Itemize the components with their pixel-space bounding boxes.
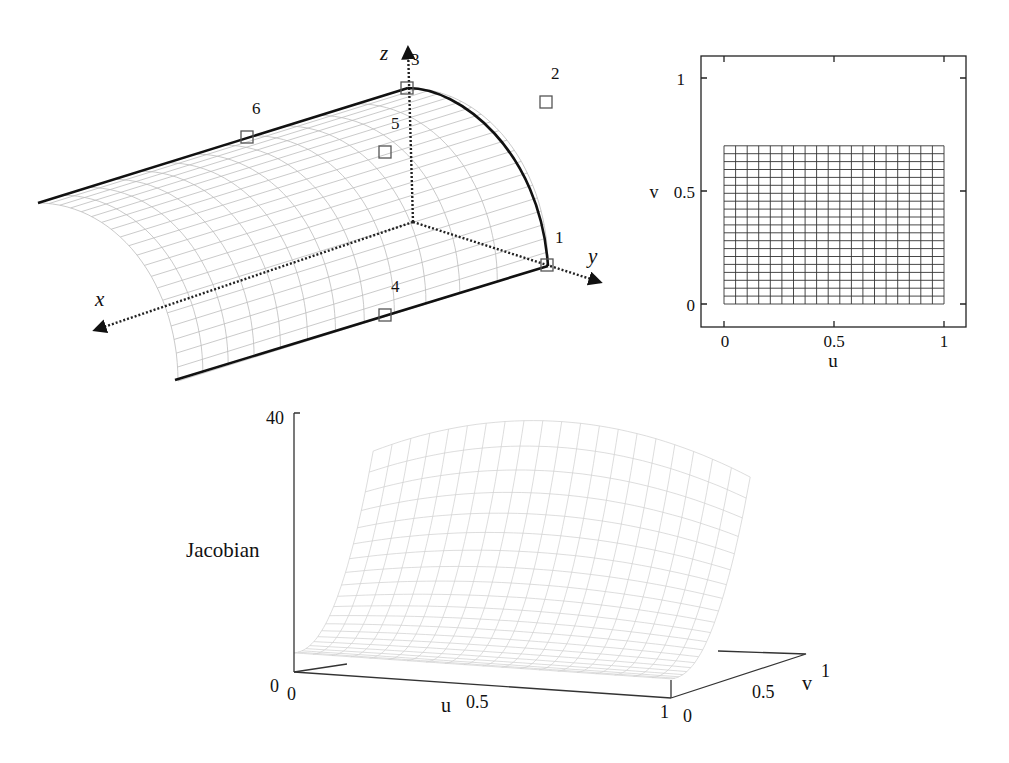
u-axis-label: u xyxy=(441,694,451,716)
parameter-plot: 1 0.5 0 v 0 0.5 1 u xyxy=(650,56,967,371)
z-axis-label: z xyxy=(379,41,388,65)
control-point-6-label: 6 xyxy=(252,99,261,118)
x-tick-0: 0 xyxy=(721,332,730,351)
surface-top-edge xyxy=(38,88,408,203)
control-point-4-label: 4 xyxy=(391,277,400,296)
y-axis-label: y xyxy=(586,244,598,268)
u-tick-0.5: 0.5 xyxy=(466,692,489,712)
u-tick-1: 1 xyxy=(660,702,669,722)
surface-plot: x y z 1 2 3 4 5 6 xyxy=(38,41,600,381)
z-tick-40: 40 xyxy=(266,408,284,428)
figure: x y z 1 2 3 4 5 6 1 0.5 0 v 0 0.5 1 u xyxy=(0,0,1009,763)
x-tick-1: 1 xyxy=(940,332,949,351)
control-point-2 xyxy=(540,96,552,108)
v-axis-label: v xyxy=(802,672,812,694)
control-point-5-label: 5 xyxy=(391,114,400,133)
jacobian-label: Jacobian xyxy=(186,538,260,562)
parameter-plot-frame xyxy=(701,56,966,327)
x-axis-label: x xyxy=(94,287,105,311)
control-point-2-label: 2 xyxy=(551,64,560,83)
control-point-3-label: 3 xyxy=(411,50,420,69)
y-axis xyxy=(413,222,600,282)
x-axis xyxy=(95,222,413,330)
control-point-1-label: 1 xyxy=(555,228,564,247)
jacobian-surface-mesh xyxy=(294,421,750,679)
jacobian-plot: Jacobian 40 0 0 u 0.5 1 0 0.5 v 1 xyxy=(186,408,830,726)
parameter-plot-ticks xyxy=(701,56,966,327)
y-tick-1: 1 xyxy=(677,70,686,89)
v-tick-0: 0 xyxy=(683,706,692,726)
y-tick-0.5: 0.5 xyxy=(674,183,695,202)
surface-mesh xyxy=(38,88,548,381)
x-tick-0.5: 0.5 xyxy=(823,332,844,351)
jacobian-z-axis xyxy=(294,413,300,672)
y-tick-0: 0 xyxy=(687,296,696,315)
u-tick-0: 0 xyxy=(287,684,296,704)
v-tick-1: 1 xyxy=(821,661,830,681)
x-axis-label: u xyxy=(828,350,838,371)
parameter-grid xyxy=(724,146,944,304)
jacobian-v-axis xyxy=(671,651,806,698)
v-tick-0.5: 0.5 xyxy=(752,682,775,702)
y-axis-label: v xyxy=(650,182,659,202)
jacobian-v-axis-back xyxy=(294,664,347,672)
z-tick-0: 0 xyxy=(270,676,279,696)
